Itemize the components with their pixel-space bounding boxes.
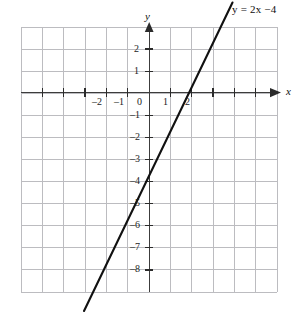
y-tick-label--2: –2	[130, 132, 140, 142]
x-tick-label-2: 2	[185, 97, 190, 107]
x-axis-label: x	[286, 86, 291, 97]
x-tick-label-1: 1	[163, 97, 168, 107]
y-tick-label--5: –5	[130, 198, 140, 208]
y-tick-label-2: 2	[134, 44, 139, 54]
y-tick-label--7: –7	[130, 242, 140, 252]
y-tick-label--1: –1	[130, 110, 140, 120]
y-tick-label--6: –6	[130, 220, 140, 230]
x-tick-label--2: –2	[92, 97, 102, 107]
y-tick-label-1: 1	[134, 66, 139, 76]
equation-annotation: y = 2x −4	[232, 4, 276, 15]
coordinate-plane	[0, 0, 300, 314]
graph-figure: –2 –1 0 1 2 2 1 –1 –2 –3 –4 –5 –6 –7 –8 …	[0, 0, 300, 314]
y-axis-label: y	[145, 11, 150, 22]
x-tick-label-0: 0	[137, 97, 142, 107]
y-tick-label--4: –4	[130, 176, 140, 186]
y-tick-label--3: –3	[130, 154, 140, 164]
x-tick-label--1: –1	[114, 97, 124, 107]
y-tick-label--8: –8	[130, 264, 140, 274]
